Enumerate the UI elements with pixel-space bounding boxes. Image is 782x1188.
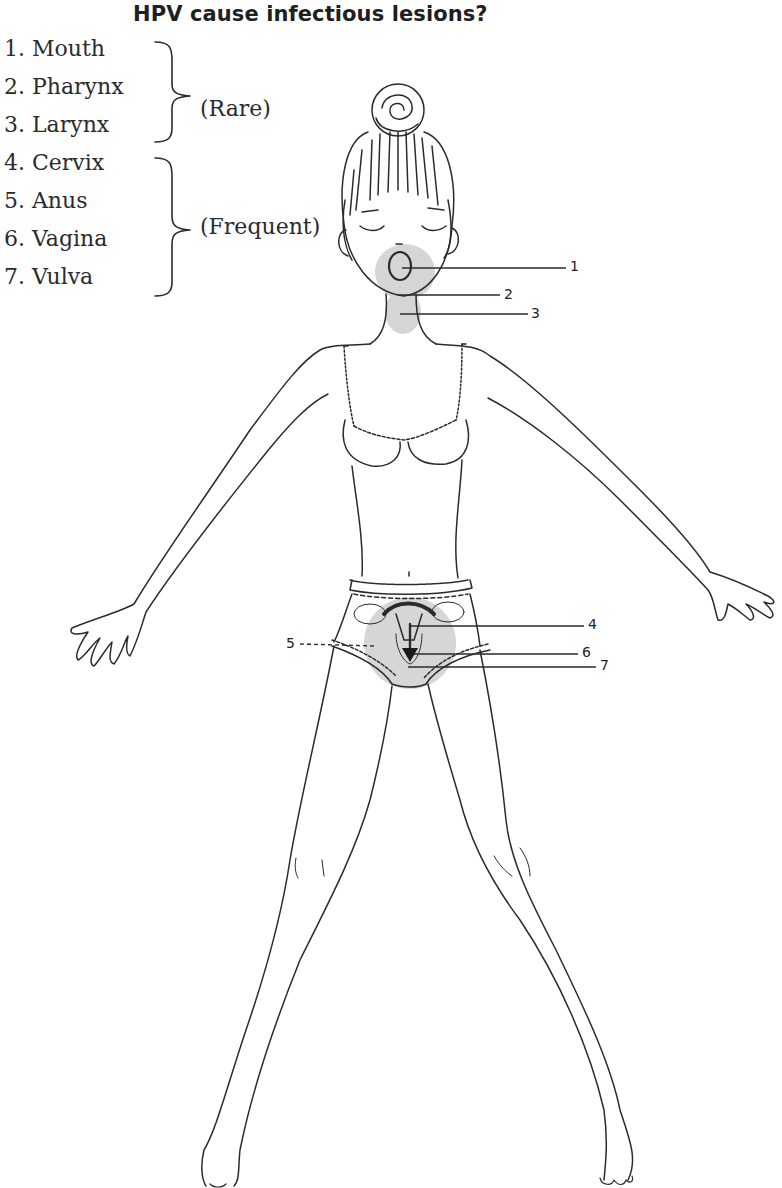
marker-1: 1 (570, 258, 579, 274)
left-leg-outer (202, 646, 334, 1186)
marker-4: 4 (588, 616, 597, 632)
right-leg-outer (480, 650, 633, 1180)
marker-7: 7 (600, 657, 609, 673)
leader-lines (300, 268, 596, 667)
marker-2: 2 (504, 286, 513, 302)
left-arm (71, 344, 370, 666)
hair-bun (372, 84, 424, 136)
left-leg-inner (234, 686, 392, 1186)
right-leg-inner (428, 684, 606, 1180)
marker-5: 5 (286, 635, 295, 651)
torso-right (456, 460, 462, 578)
marker-3: 3 (531, 305, 540, 321)
marker-6: 6 (582, 644, 591, 660)
body-illustration (0, 0, 782, 1188)
torso-left (352, 466, 362, 576)
rare-brace (155, 42, 190, 142)
frequent-brace (155, 158, 190, 296)
right-arm (436, 344, 774, 620)
bra (343, 344, 468, 466)
